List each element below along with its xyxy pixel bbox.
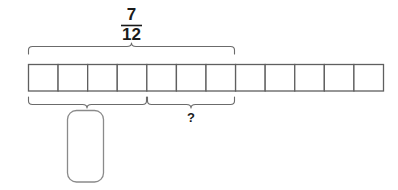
answer-box-group[interactable] [68,111,104,183]
bar-cell [176,65,206,92]
answer-brace [29,97,147,108]
bar-cell [88,65,118,92]
fraction-bar-diagram: 7 12 ? [0,0,398,190]
bar-cell [236,65,266,92]
bar-cell [265,65,295,92]
unknown-label: ? [187,110,195,125]
bar-cell [324,65,354,92]
fraction-numerator: 7 [127,5,136,24]
bar-cell [117,65,147,92]
top-brace [29,43,235,54]
bar-cell [147,65,177,92]
fraction-label: 7 12 [121,5,142,44]
unknown-brace: ? [148,97,235,125]
bar-cell [354,65,384,92]
bar-cell [29,65,59,92]
fraction-diagram-canvas: 7 12 ? [0,0,398,190]
fraction-denominator: 12 [122,25,141,44]
bar-cell [295,65,325,92]
bar-cell [206,65,236,92]
bar-model [29,65,384,92]
bar-cell [58,65,88,92]
answer-box[interactable] [68,111,104,183]
